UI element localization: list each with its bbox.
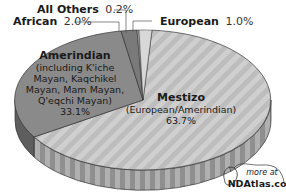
- badge-site: NDAtlas.com: [228, 178, 286, 189]
- ndatlas-badge[interactable]: more at NDAtlas.com: [224, 164, 286, 189]
- label-european: European 1.0%: [160, 15, 253, 28]
- svg-text:63.7%: 63.7%: [166, 115, 196, 126]
- svg-text:Mayan, Mam Mayan,: Mayan, Mam Mayan,: [26, 84, 124, 95]
- svg-text:Mayan, Kaqchikel: Mayan, Kaqchikel: [34, 73, 117, 84]
- svg-text:Mestizo: Mestizo: [157, 91, 205, 104]
- svg-text:Amerindian: Amerindian: [39, 49, 110, 62]
- svg-text:Q'eqchi Mayan): Q'eqchi Mayan): [38, 95, 112, 106]
- svg-text:(European/Amerindian): (European/Amerindian): [126, 104, 237, 115]
- svg-text:33.1%: 33.1%: [60, 106, 90, 117]
- pie-chart: All Others 0.2% African 2.0% European 1.…: [0, 0, 286, 194]
- badge-more-at: more at: [246, 168, 278, 177]
- label-african: African 2.0%: [13, 15, 92, 28]
- svg-text:(including K'iche: (including K'iche: [36, 62, 115, 73]
